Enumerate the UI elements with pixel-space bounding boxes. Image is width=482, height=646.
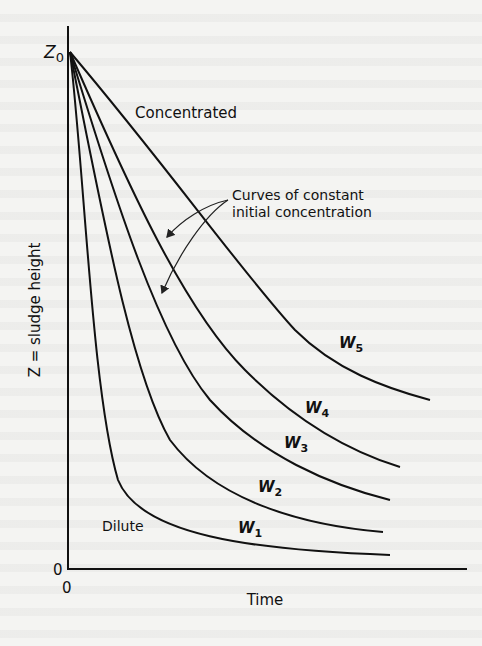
y-origin-label: 0 — [53, 561, 63, 579]
z0-label: Z0 — [43, 42, 64, 65]
dilute-label: Dilute — [102, 518, 144, 534]
label-w3: W3 — [284, 434, 308, 455]
curve-w2 — [70, 52, 383, 532]
curve-w1 — [70, 52, 390, 555]
curve-w5 — [70, 52, 430, 400]
x-origin-label: 0 — [62, 579, 72, 597]
settling-curves-diagram: Z0 0 0 Z = sludge height Time Concentrat… — [0, 0, 482, 646]
concentrated-label: Concentrated — [135, 104, 237, 122]
curves-annotation-line2: initial concentration — [232, 204, 372, 220]
label-w5: W5 — [339, 334, 363, 355]
y-axis-title: Z = sludge height — [26, 243, 44, 378]
curves-annotation-line1: Curves of constant — [232, 187, 364, 203]
label-w2: W2 — [258, 478, 282, 499]
label-w1: W1 — [238, 519, 262, 540]
x-axis-title: Time — [246, 591, 284, 609]
label-w4: W4 — [305, 399, 330, 420]
